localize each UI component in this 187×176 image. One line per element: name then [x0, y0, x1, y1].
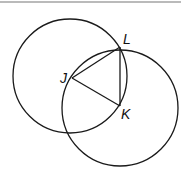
segment-JK [72, 78, 120, 106]
geometry-diagram: J L K [0, 0, 187, 176]
label-L: L [123, 31, 131, 47]
circle-centered-J [13, 19, 127, 133]
label-J: J [59, 70, 68, 86]
segment-JL [72, 47, 120, 78]
label-K: K [121, 106, 131, 122]
